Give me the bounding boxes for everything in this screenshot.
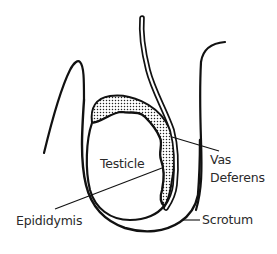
vas-deferens-label-line2: Deferens [210, 170, 265, 185]
vas-deferens-label-line1: Vas [210, 152, 231, 167]
testicle-label: Testicle [100, 156, 145, 171]
left-body-contour [44, 61, 84, 153]
epididymis-label: Epididymis [16, 213, 82, 228]
scrotum-label: Scrotum [202, 212, 253, 227]
vas-deferens-leader [172, 137, 219, 151]
